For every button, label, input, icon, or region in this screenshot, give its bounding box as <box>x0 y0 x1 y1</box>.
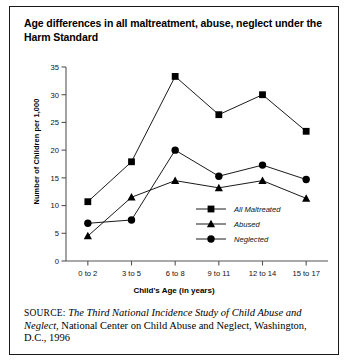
source-rest: , National Center on Child Abuse and Neg… <box>24 320 307 344</box>
svg-text:Neglected: Neglected <box>234 235 269 244</box>
legend-item-all-maltreated: All Maltreated <box>196 205 281 214</box>
source-note: SOURCE: The Third National Incidence Stu… <box>24 307 324 345</box>
legend-item-neglected: Neglected <box>196 235 269 244</box>
x-axis-label: Child's Age (in years) <box>10 286 338 296</box>
svg-text:Abused: Abused <box>233 220 261 229</box>
svg-text:30: 30 <box>51 91 59 100</box>
source-prefix: SOURCE: <box>24 308 66 318</box>
line-chart: 051015202530350 to 23 to 56 to 89 to 111… <box>10 59 338 285</box>
svg-text:9 to 11: 9 to 11 <box>207 269 230 278</box>
svg-text:0: 0 <box>55 257 59 266</box>
svg-text:5: 5 <box>55 229 59 238</box>
svg-text:3 to 5: 3 to 5 <box>122 269 141 278</box>
svg-text:10: 10 <box>51 201 59 210</box>
svg-text:15: 15 <box>51 174 59 183</box>
svg-text:25: 25 <box>51 118 59 127</box>
svg-text:12 to 14: 12 to 14 <box>249 269 276 278</box>
plot-area: Number of Children per 1,000 Child's Age… <box>10 59 338 291</box>
svg-text:6 to 8: 6 to 8 <box>166 269 185 278</box>
legend-item-abused: Abused <box>196 220 261 229</box>
series-all-maltreated <box>84 73 309 205</box>
svg-text:All Maltreated: All Maltreated <box>233 205 281 214</box>
svg-text:0 to 2: 0 to 2 <box>78 269 97 278</box>
svg-text:35: 35 <box>51 63 59 72</box>
svg-text:20: 20 <box>51 146 59 155</box>
svg-text:15 to 17: 15 to 17 <box>292 269 319 278</box>
series-neglected <box>84 146 310 227</box>
figure-panel: Age differences in all maltreatment, abu… <box>9 6 339 355</box>
chart-title: Age differences in all maltreatment, abu… <box>24 17 324 44</box>
